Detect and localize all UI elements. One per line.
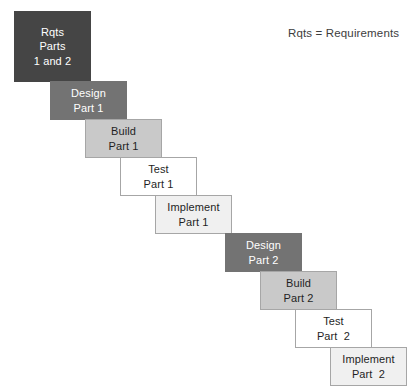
waterfall-staircase-diagram: RqtsParts1 and 2DesignPart 1BuildPart 1T…	[0, 0, 414, 386]
stage-label-line: Part 2	[352, 367, 385, 382]
stage-box-design-part-1[interactable]: DesignPart 1	[50, 81, 127, 120]
stage-box-test-part-2[interactable]: TestPart 2	[295, 309, 372, 348]
stage-box-design-part-2[interactable]: DesignPart 2	[225, 233, 302, 272]
stage-box-requirements-parts-1-and-2[interactable]: RqtsParts1 and 2	[14, 11, 91, 82]
stage-label-line: Part 1	[144, 177, 174, 192]
stage-label-line: Design	[246, 238, 281, 253]
stage-label-line: 1 and 2	[34, 54, 71, 69]
stage-label-line: Build	[286, 276, 311, 291]
stage-label-line: Implement	[342, 352, 394, 367]
stage-label-line: Part 1	[109, 139, 139, 154]
stage-label-line: Design	[71, 86, 106, 101]
stage-label-line: Rqts	[41, 25, 64, 40]
stage-box-implement-part-1[interactable]: ImplementPart 1	[155, 195, 232, 234]
stage-box-build-part-2[interactable]: BuildPart 2	[260, 271, 337, 310]
stage-label-line: Build	[111, 124, 136, 139]
stage-label-line: Test	[323, 314, 344, 329]
stage-label-line: Part 1	[74, 101, 104, 116]
stage-label-line: Part 2	[284, 291, 314, 306]
stage-box-build-part-1[interactable]: BuildPart 1	[85, 119, 162, 158]
stage-label-line: Implement	[167, 200, 219, 215]
stage-label-line: Part 2	[317, 329, 350, 344]
legend-rqts-definition: Rqts = Requirements	[288, 27, 399, 39]
stage-label-line: Part 2	[249, 253, 279, 268]
stage-label-line: Parts	[39, 39, 65, 54]
stage-box-implement-part-2[interactable]: ImplementPart 2	[330, 347, 407, 386]
stage-label-line: Test	[148, 162, 169, 177]
stage-box-test-part-1[interactable]: TestPart 1	[120, 157, 197, 196]
stage-label-line: Part 1	[179, 215, 209, 230]
